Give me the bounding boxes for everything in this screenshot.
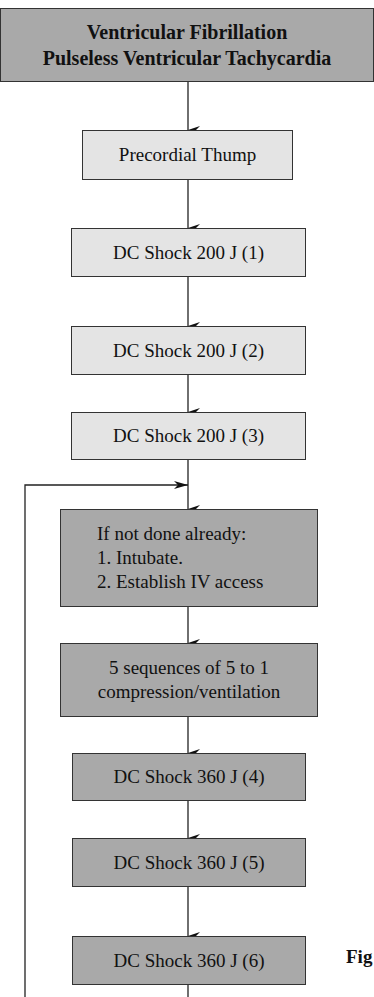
step-dc-shock-360-4: DC Shock 360 J (4)	[72, 753, 306, 801]
step-dc-shock-200-3: DC Shock 200 J (3)	[71, 412, 306, 460]
step-intubate-iv: If not done already: 1. Intubate. 2. Est…	[60, 509, 318, 607]
step-dc-shock-360-6: DC Shock 360 J (6)	[72, 936, 306, 985]
step-label: DC Shock 200 J (3)	[113, 424, 264, 448]
title-line-1: Ventricular Fibrillation	[87, 19, 288, 45]
step-label: DC Shock 360 J (4)	[114, 765, 265, 789]
step-label: DC Shock 200 J (2)	[113, 339, 264, 363]
step-line: 1. Intubate.	[97, 546, 183, 570]
step-line: 5 sequences of 5 to 1	[109, 656, 269, 680]
step-label: Precordial Thump	[119, 143, 256, 167]
title-box: Ventricular Fibrillation Pulseless Ventr…	[0, 8, 374, 82]
step-precordial-thump: Precordial Thump	[82, 130, 293, 180]
step-dc-shock-200-1: DC Shock 200 J (1)	[71, 228, 306, 277]
step-label: DC Shock 360 J (6)	[114, 949, 265, 973]
step-line: If not done already:	[97, 522, 246, 546]
step-dc-shock-200-2: DC Shock 200 J (2)	[71, 326, 306, 375]
step-line: compression/ventilation	[98, 680, 281, 704]
step-dc-shock-360-5: DC Shock 360 J (5)	[72, 838, 306, 887]
step-line: 2. Establish IV access	[97, 570, 263, 594]
step-label: DC Shock 200 J (1)	[113, 241, 264, 265]
step-label: DC Shock 360 J (5)	[114, 851, 265, 875]
title-line-2: Pulseless Ventricular Tachycardia	[43, 45, 332, 71]
figure-label: Fig	[346, 946, 372, 968]
step-cpr-sequences: 5 sequences of 5 to 1 compression/ventil…	[60, 643, 318, 717]
